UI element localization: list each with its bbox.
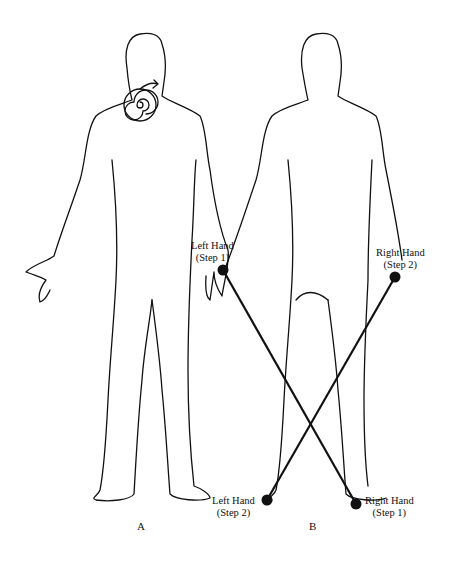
connection-lines: [223, 270, 395, 504]
figure-a-outline: [26, 33, 228, 500]
label-line: (Step 1): [191, 252, 234, 264]
label-line: (Step 2): [376, 259, 425, 271]
label-left-hand-step1: Left Hand (Step 1): [191, 240, 234, 264]
figure-a-label: A: [137, 520, 145, 532]
label-left-hand-step2: Left Hand (Step 2): [212, 495, 255, 519]
body-outlines: [0, 0, 451, 561]
label-line: (Step 2): [212, 507, 255, 519]
label-right-hand-step1: Right Hand (Step 1): [365, 495, 414, 519]
contact-points: [218, 265, 401, 510]
label-line: Right Hand: [376, 247, 425, 259]
label-right-hand-step2: Right Hand (Step 2): [376, 247, 425, 271]
label-line: Left Hand: [212, 495, 255, 507]
label-line: Left Hand: [191, 240, 234, 252]
label-line: Right Hand: [365, 495, 414, 507]
label-line: (Step 1): [365, 507, 414, 519]
diagram-canvas: Left Hand (Step 1) Right Hand (Step 2) L…: [0, 0, 451, 561]
figure-b-label: B: [309, 520, 316, 532]
